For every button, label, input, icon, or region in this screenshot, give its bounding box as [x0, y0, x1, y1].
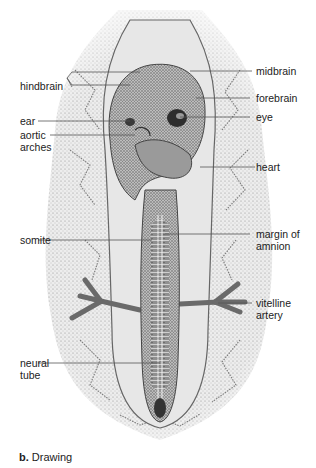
label-hindbrain: hindbrain: [20, 80, 63, 92]
label-margin-of-amnion-line1: margin of: [256, 228, 300, 240]
eye: [167, 109, 187, 127]
label-neural-tube-line1: neural: [20, 357, 49, 369]
label-vitelline-artery-line1: vitelline: [256, 297, 291, 309]
figure-caption: b. Drawing: [19, 451, 72, 463]
label-margin-of-amnion-line2: amnion: [256, 240, 290, 252]
ear: [125, 118, 135, 126]
somites: [151, 220, 169, 390]
label-somite: somite: [20, 234, 51, 246]
caption-prefix: b.: [19, 451, 29, 463]
label-aortic-arches-line2: arches: [20, 141, 52, 153]
label-heart: heart: [256, 161, 280, 173]
label-neural-tube-line2: tube: [20, 369, 40, 381]
label-ear: ear: [20, 115, 35, 127]
label-eye: eye: [256, 111, 273, 123]
label-midbrain: midbrain: [256, 65, 296, 77]
label-forebrain: forebrain: [256, 92, 297, 104]
label-vitelline-artery-line2: artery: [256, 309, 283, 321]
caption-text: Drawing: [29, 451, 72, 463]
label-aortic-arches-line1: aortic: [20, 129, 46, 141]
